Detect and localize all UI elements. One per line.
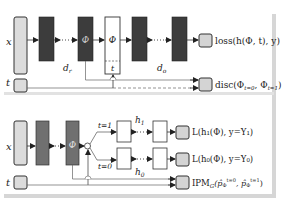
top-dr-label: dr bbox=[63, 63, 73, 74]
bottom-phi-label: Φ bbox=[69, 140, 76, 150]
top-panel: x t Φ dr Φ t do bbox=[6, 17, 281, 92]
top-do-label: do bbox=[157, 63, 167, 74]
h1-first-layer bbox=[117, 121, 131, 142]
panel-separator bbox=[4, 92, 274, 95]
top-repr-layer-1 bbox=[39, 17, 54, 61]
top-concat-phi-label: Φ bbox=[109, 35, 116, 45]
top-loss-label: loss(h(Φ, t), y) bbox=[215, 36, 280, 46]
top-outcome-layer-1 bbox=[132, 17, 147, 61]
loss0-box bbox=[176, 153, 189, 166]
h0-last-layer bbox=[153, 148, 167, 169]
bottom-input-x-label: x bbox=[6, 141, 12, 152]
top-phi-label: Φ bbox=[82, 35, 89, 45]
architecture-diagram: x t Φ dr Φ t do bbox=[0, 0, 286, 208]
h0-label: h0 bbox=[135, 167, 145, 178]
bottom-input-t-box bbox=[14, 176, 27, 189]
ipm-box bbox=[176, 176, 189, 189]
top-disc-label: disc(Φt=0, Φt=1) bbox=[215, 80, 281, 91]
top-input-t-label: t bbox=[6, 77, 11, 88]
bottom-panel: x t Φ t=1 t=0 h1 L(h₁(Φ), y=Y₁) bbox=[6, 115, 263, 189]
loss1-label: L(h₁(Φ), y=Y₁) bbox=[192, 127, 253, 137]
top-input-x-box bbox=[14, 17, 27, 74]
h1-label: h1 bbox=[135, 115, 145, 126]
top-outcome-layer-last bbox=[172, 17, 187, 61]
branch-t1-label: t=1 bbox=[98, 121, 112, 130]
top-input-t-box bbox=[14, 79, 27, 92]
bottom-repr-layer-1 bbox=[36, 121, 49, 165]
loss0-label: L(h₀(Φ), y=Y₀) bbox=[192, 154, 253, 164]
panel-border-bottom bbox=[4, 194, 276, 198]
bottom-input-x-box bbox=[14, 121, 27, 165]
branch-t0-label: t=0 bbox=[98, 162, 112, 171]
top-loss-box bbox=[199, 34, 212, 47]
ipm-label: IPMG(p̂Φt=0, p̂Φt=1) bbox=[192, 177, 263, 189]
top-input-x-label: x bbox=[6, 36, 12, 47]
treatment-switch-node bbox=[85, 143, 91, 149]
top-disc-box bbox=[199, 78, 212, 91]
bottom-input-t-label: t bbox=[6, 177, 11, 188]
h0-first-layer bbox=[117, 148, 131, 169]
loss1-box bbox=[176, 126, 189, 139]
h1-last-layer bbox=[153, 121, 167, 142]
